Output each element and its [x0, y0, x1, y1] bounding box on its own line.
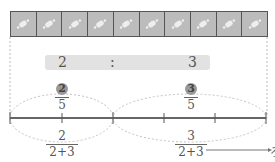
left-fraction-below: 2 2+3: [46, 130, 78, 159]
right-circle-marker: 3: [185, 83, 197, 95]
right-above-denominator: 5: [187, 98, 195, 112]
ratio-left: 2: [58, 54, 67, 70]
right-below-numerator: 3: [187, 129, 195, 143]
left-below-numerator: 2: [58, 129, 66, 143]
ratio-right: 3: [188, 54, 197, 70]
ratio-diagram: 2 : 3 2 2 5 3 3 5 2 2+3 3 2+3 ろ: [0, 0, 275, 162]
left-circle-marker: 2: [56, 83, 68, 95]
left-fraction-above: 2 5: [55, 96, 69, 112]
left-above-denominator: 5: [58, 98, 66, 112]
right-fraction-above: 3 5: [184, 96, 198, 112]
right-below-denominator: 2+3: [178, 145, 203, 159]
ratio-separator: :: [110, 54, 115, 70]
ratio-bar: [45, 55, 210, 70]
right-fraction-below: 3 2+3: [175, 130, 207, 159]
arrow-target-label: ろ: [270, 143, 275, 159]
guides-and-number-line: [0, 0, 275, 162]
left-below-denominator: 2+3: [49, 145, 74, 159]
